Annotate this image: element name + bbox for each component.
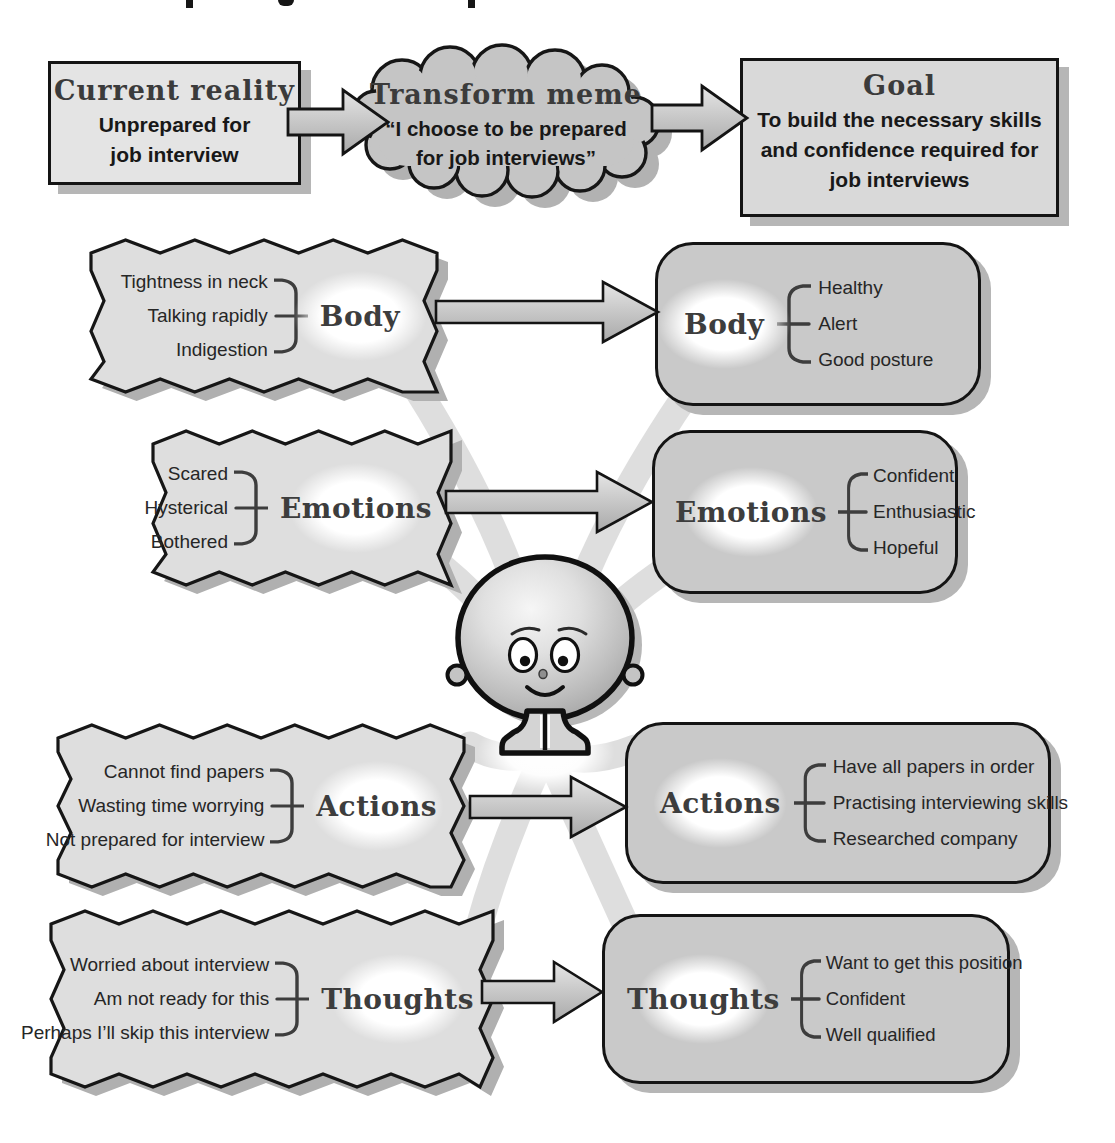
transform-meme-title: Transform meme [370, 78, 642, 112]
body-before-items: Tightness in neck Talking rapidly Indige… [121, 265, 268, 367]
body-after-items: Healthy Alert Good posture [818, 270, 933, 378]
list-item: Cannot find papers [104, 755, 265, 789]
list-item: Good posture [818, 342, 933, 378]
body-before-box: Tightness in neck Talking rapidly Indige… [88, 237, 440, 395]
actions-after-items: Have all papers in order Practising inte… [833, 749, 1068, 857]
brace-left [275, 948, 309, 1050]
current-reality-title: Current reality [54, 74, 295, 108]
emotions-after-items: Confident Enthusiastic Hopeful [873, 458, 975, 566]
list-item: Perhaps I’ll skip this interview [21, 1016, 269, 1050]
list-item: Hysterical [145, 491, 228, 525]
list-item: Not prepared for interview [46, 823, 265, 857]
list-item: Wasting time worrying [78, 789, 264, 823]
category-label-emotions: Emotions [675, 496, 827, 529]
actions-after-box: Actions Have all papers in order Practis… [625, 722, 1051, 884]
arrow-body [436, 274, 662, 350]
emotions-after-box: Emotions Confident Enthusiastic Hopeful [652, 430, 958, 594]
list-item: Scared [168, 457, 228, 491]
list-item: Want to get this position [826, 945, 1023, 981]
diagram-canvas: Current reality Unprepared for job inter… [0, 0, 1115, 1143]
list-item: Have all papers in order [833, 749, 1068, 785]
thoughts-before-box: Worried about interview Am not ready for… [48, 908, 496, 1090]
mascot-eye-left [510, 639, 537, 672]
category-label-emotions: Emotions [280, 492, 432, 525]
actions-before-items: Cannot find papers Wasting time worrying… [46, 755, 265, 857]
mascot-eye-right [552, 639, 579, 672]
mascot-pupil-left [520, 656, 530, 666]
list-item: Practising interviewing skills [833, 785, 1068, 821]
current-reality-box: Current reality Unprepared for job inter… [48, 61, 301, 185]
category-label-body: Body [684, 308, 764, 341]
transform-meme-text: “I choose to be prepared for job intervi… [380, 114, 632, 172]
goal-box: Goal To build the necessary skills and c… [740, 58, 1059, 217]
list-item: Confident [873, 458, 975, 494]
mascot-figure-icon [448, 552, 648, 767]
arrow-reality-to-meme [288, 82, 394, 162]
transform-meme-cloud: Transform meme “I choose to be prepared … [350, 50, 662, 200]
arrow-emotions [446, 464, 656, 540]
list-item: Healthy [818, 270, 933, 306]
emotions-before-box: Scared Hysterical Bothered Emotions [150, 428, 454, 588]
mascot-pupil-right [558, 656, 568, 666]
list-item: Bothered [151, 525, 228, 559]
thoughts-after-items: Want to get this position Confident Well… [826, 945, 1023, 1053]
arrow-actions [470, 769, 630, 845]
list-item: Am not ready for this [94, 982, 269, 1016]
current-reality-text: Unprepared for job interview [82, 110, 267, 170]
cropped-heading-fragment [186, 0, 193, 8]
thoughts-after-box: Thoughts Want to get this position Confi… [602, 914, 1010, 1084]
list-item: Worried about interview [70, 948, 269, 982]
emotions-before-items: Scared Hysterical Bothered [145, 457, 228, 559]
list-item: Researched company [833, 821, 1068, 857]
mascot-ear-right [624, 666, 643, 685]
list-item: Hopeful [873, 530, 975, 566]
list-item: Enthusiastic [873, 494, 975, 530]
list-item: Tightness in neck [121, 265, 268, 299]
category-label-body: Body [320, 300, 400, 333]
list-item: Alert [818, 306, 933, 342]
goal-title: Goal [863, 69, 936, 103]
list-item: Confident [826, 981, 1023, 1017]
category-label-actions: Actions [316, 790, 437, 823]
category-label-thoughts: Thoughts [321, 983, 474, 1016]
goal-text: To build the necessary skills and confid… [751, 105, 1049, 195]
list-item: Talking rapidly [147, 299, 267, 333]
cropped-heading-fragment [468, 0, 475, 8]
category-label-actions: Actions [660, 787, 781, 820]
thoughts-before-items: Worried about interview Am not ready for… [21, 948, 269, 1050]
mascot-ear-left [448, 666, 467, 685]
arrow-thoughts [482, 954, 606, 1030]
arrow-meme-to-goal [652, 78, 752, 158]
actions-before-box: Cannot find papers Wasting time worrying… [55, 722, 467, 890]
mascot-nose [539, 669, 547, 678]
body-after-box: Body Healthy Alert Good posture [655, 242, 981, 406]
list-item: Indigestion [176, 333, 268, 367]
category-label-thoughts: Thoughts [627, 983, 780, 1016]
list-item: Well qualified [826, 1017, 1023, 1053]
